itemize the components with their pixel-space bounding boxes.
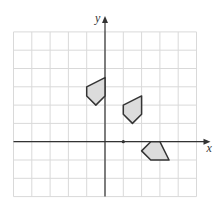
coordinate-grid: x y [0, 0, 222, 204]
y-axis-label: y [94, 11, 101, 25]
y-axis-arrow-icon [102, 16, 108, 23]
x-axis-label: x [206, 141, 213, 155]
shape-2 [123, 96, 141, 123]
axes [14, 16, 211, 197]
shape-1 [87, 78, 105, 105]
shape-3 [142, 142, 169, 160]
shapes [87, 78, 169, 160]
marked-point [122, 140, 125, 143]
